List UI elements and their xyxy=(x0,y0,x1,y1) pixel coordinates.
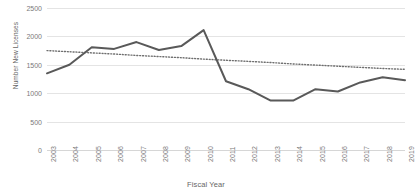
y-tick-label: 2500 xyxy=(26,5,42,12)
x-tick-label: 2013 xyxy=(274,146,281,162)
series-group xyxy=(47,8,405,150)
trendline-path xyxy=(47,51,405,70)
x-tick-label: 2014 xyxy=(296,146,303,162)
x-tick-label: 2008 xyxy=(162,146,169,162)
x-tick-label: 2009 xyxy=(184,146,191,162)
y-tick-label: 0 xyxy=(38,147,42,154)
y-tick-label: 1000 xyxy=(26,90,42,97)
x-tick-label: 2018 xyxy=(386,146,393,162)
y-tick-label: 1500 xyxy=(26,61,42,68)
x-tick-label: 2016 xyxy=(341,146,348,162)
y-tick-label: 500 xyxy=(30,118,42,125)
x-tick-label: 2010 xyxy=(207,146,214,162)
x-tick-label: 2005 xyxy=(95,146,102,162)
x-tick-label: 2007 xyxy=(140,146,147,162)
x-tick-label: 2015 xyxy=(319,146,326,162)
x-tick-label: 2011 xyxy=(229,147,236,162)
series-line-path xyxy=(47,30,405,100)
x-tick-label: 2017 xyxy=(363,146,370,162)
y-axis-title: Number New Licenses xyxy=(12,0,19,112)
plot-area: 05001000150020002500 2003200420052006200… xyxy=(47,8,405,150)
x-tick-label: 2019 xyxy=(408,146,415,162)
x-tick-label: 2012 xyxy=(251,146,258,162)
x-tick-label: 2004 xyxy=(72,146,79,162)
x-tick-label: 2003 xyxy=(50,146,57,162)
x-axis-title: Fiscal Year xyxy=(0,180,412,189)
y-tick-label: 2000 xyxy=(26,33,42,40)
x-tick-label: 2006 xyxy=(117,146,124,162)
